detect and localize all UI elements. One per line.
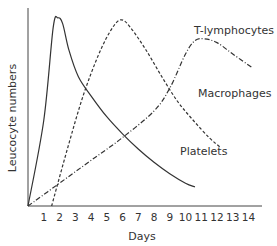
- x-tick-label: 2: [56, 211, 63, 223]
- series-line-platelets: [28, 16, 195, 206]
- x-tick-label: 3: [72, 211, 79, 223]
- x-tick-label: 7: [135, 211, 142, 223]
- x-tick-label: 12: [210, 211, 223, 223]
- x-tick-label: 9: [166, 211, 173, 223]
- x-tick-label: 4: [88, 211, 95, 223]
- series-line-t-lymphocytes: [28, 39, 252, 206]
- x-tick-label: 8: [151, 211, 158, 223]
- x-axis-label: Days: [128, 230, 156, 243]
- x-tick-label: 14: [242, 211, 256, 223]
- y-axis-label: Leucocyte numbers: [6, 64, 19, 173]
- label-macrophages: Macrophages: [198, 87, 272, 100]
- x-tick-label: 1: [40, 211, 47, 223]
- label-platelets: Platelets: [180, 145, 228, 158]
- series-line-macrophages: [52, 20, 221, 206]
- label-t-lymphocytes: T-lymphocytes: [193, 24, 274, 37]
- x-tick-label: 5: [103, 211, 110, 223]
- leucocyte-chart: 1234567891011121314 Days Leucocyte numbe…: [0, 0, 277, 246]
- x-tick-label: 6: [119, 211, 126, 223]
- x-tick-label: 11: [195, 211, 208, 223]
- x-tick-label: 13: [226, 211, 239, 223]
- x-tick-label: 10: [179, 211, 192, 223]
